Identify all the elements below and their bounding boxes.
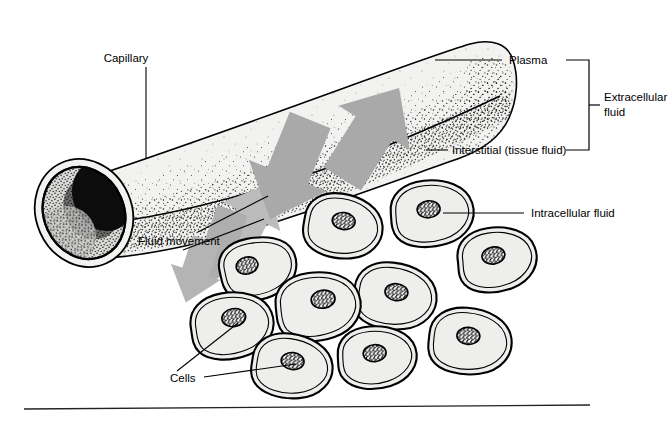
label-extracellular-line1: Extracellular [604,91,667,103]
cell [426,305,513,377]
figure-container: Capillary Plasma Interstitial (tissue fl… [0,0,670,424]
label-extracellular-line2: fluid [604,106,625,118]
extracellular-bracket [566,60,600,150]
cell [335,323,419,392]
label-capillary: Capillary [104,52,149,64]
cell [300,189,387,264]
label-plasma: Plasma [509,54,548,66]
cell [350,259,440,334]
label-cells: Cells [170,372,196,384]
label-intracellular: Intracellular fluid [531,207,615,219]
bottom-rule [24,405,590,409]
nucleus [456,327,480,346]
body-fluid-compartments-diagram: Capillary Plasma Interstitial (tissue fl… [0,0,670,424]
label-interstitial: Interstitial (tissue fluid) [452,144,567,156]
label-fluid-movement: Fluid movement [138,235,221,247]
